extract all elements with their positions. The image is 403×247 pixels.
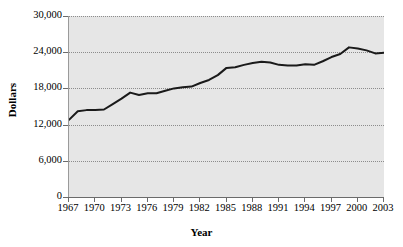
y-tick-label: 0	[16, 191, 62, 201]
plot-area	[68, 16, 384, 198]
y-tick-label: 18,000	[16, 82, 62, 92]
y-tick-label: 12,000	[16, 119, 62, 129]
x-tick-label: 2003	[365, 202, 401, 213]
y-tick-label: 24,000	[16, 46, 62, 56]
data-series-line	[69, 16, 384, 197]
y-tick-label: 30,000	[16, 10, 62, 20]
line-chart: Dollars 06,00012,00018,00024,00030,000 1…	[0, 0, 403, 247]
plot-inner	[69, 16, 384, 197]
x-axis-title: Year	[0, 226, 403, 238]
series-polyline	[69, 47, 384, 119]
y-tick-label: 6,000	[16, 155, 62, 165]
